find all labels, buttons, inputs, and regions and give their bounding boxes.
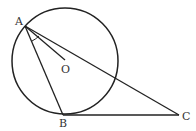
label-a: A <box>14 15 24 28</box>
geometry-diagram: A O B C <box>0 0 196 131</box>
angle-mark-a <box>32 36 39 41</box>
label-o: O <box>61 63 70 76</box>
segment-ao <box>25 26 65 60</box>
circle-o <box>12 8 118 114</box>
label-c: C <box>182 110 190 123</box>
label-b: B <box>59 117 67 130</box>
segment-ac <box>25 26 179 115</box>
